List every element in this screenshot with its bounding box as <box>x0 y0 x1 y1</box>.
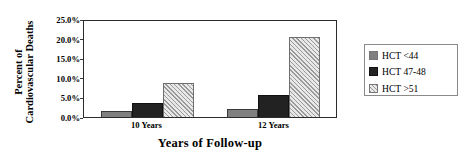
y-axis-tick-label: 25.0% <box>56 15 83 25</box>
bar <box>101 111 132 117</box>
x-axis-category-labels: 10 Years12 Years <box>83 120 337 134</box>
bar <box>163 83 194 117</box>
y-axis-tick-label: 20.0% <box>56 34 83 44</box>
bar <box>132 103 163 117</box>
legend-item-label: HCT >51 <box>382 83 418 94</box>
legend-item: HCT 47-48 <box>369 65 454 79</box>
bar-group <box>227 21 320 117</box>
y-axis-tick-label: 10.0% <box>56 73 83 83</box>
legend-swatch-icon <box>369 51 378 60</box>
bar-chart-figure: Percent of Cardiovascular Deaths 0.0%5.0… <box>0 0 464 164</box>
bar <box>289 37 320 117</box>
legend-item: HCT <44 <box>369 48 454 62</box>
legend-item-label: HCT <44 <box>382 50 418 61</box>
x-axis-category-label: 12 Years <box>227 120 320 130</box>
chart-legend: HCT <44HCT 47-48HCT >51 <box>364 44 458 96</box>
bar-groups <box>84 21 336 117</box>
legend-swatch-icon <box>369 67 378 76</box>
legend-item-label: HCT 47-48 <box>382 66 426 77</box>
y-axis-ticks: 0.0%5.0%10.0%15.0%20.0%25.0% <box>0 20 83 118</box>
legend-item: HCT >51 <box>369 81 454 95</box>
plot-area <box>83 20 337 118</box>
x-axis-category-label: 10 Years <box>100 120 193 130</box>
bar-group <box>101 21 194 117</box>
x-axis-title: Years of Follow-up <box>83 136 337 151</box>
legend-swatch-icon <box>369 84 378 93</box>
bar <box>227 109 258 117</box>
bar <box>258 95 289 117</box>
y-axis-tick-label: 15.0% <box>56 54 83 64</box>
